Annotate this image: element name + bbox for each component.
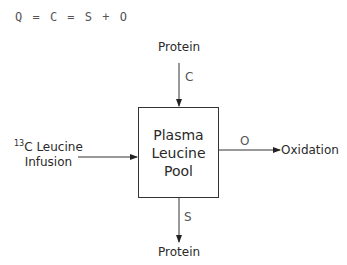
pool-label-1: Plasma bbox=[151, 126, 205, 144]
top-flux-label: C bbox=[185, 70, 193, 84]
left-source-line2: Infusion bbox=[14, 155, 83, 170]
pool-label-2: Leucine bbox=[151, 144, 205, 162]
right-sink-label: Oxidation bbox=[281, 143, 339, 157]
bottom-flux-label: S bbox=[184, 210, 192, 224]
right-flux-label: O bbox=[240, 134, 249, 148]
isotope-superscript: 13 bbox=[14, 139, 24, 148]
top-source-label: Protein bbox=[158, 40, 200, 54]
left-source-label: 13C Leucine Infusion bbox=[14, 136, 83, 170]
left-source-line1: C Leucine bbox=[24, 140, 83, 154]
plasma-leucine-pool-box: Plasma Leucine Pool bbox=[138, 107, 219, 198]
bottom-sink-label: Protein bbox=[158, 245, 200, 259]
pool-label-3: Pool bbox=[151, 162, 205, 180]
